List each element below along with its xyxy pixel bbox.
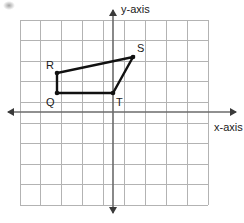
x-axis-right-arrow-icon — [230, 108, 237, 116]
coordinate-plane-figure — [0, 0, 244, 223]
polygon-qrst — [57, 57, 133, 93]
vertex-dot-t — [111, 91, 116, 96]
vertex-dot-r — [55, 71, 60, 76]
vertex-label-s: S — [137, 43, 144, 54]
x-axis-label: x-axis — [214, 122, 243, 133]
y-axis-label: y-axis — [121, 4, 150, 15]
vertex-label-q: Q — [46, 97, 55, 108]
axes — [7, 9, 237, 214]
x-axis-left-arrow-icon — [7, 108, 14, 116]
y-axis-down-arrow-icon — [109, 207, 117, 214]
y-axis-up-arrow-icon — [109, 9, 117, 16]
vertex-dot-q — [55, 91, 60, 96]
vertex-label-t: T — [116, 97, 123, 108]
vertex-dot-s — [131, 55, 136, 60]
vertex-label-r: R — [46, 60, 54, 71]
